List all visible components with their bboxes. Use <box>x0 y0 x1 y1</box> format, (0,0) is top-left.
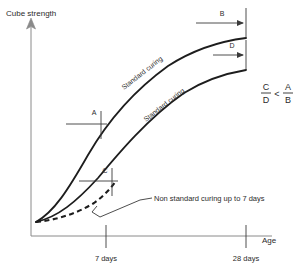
relation-expression-group: C D < A B <box>261 82 293 105</box>
marker-b-arrowhead <box>237 20 244 26</box>
marker-label-d: D <box>229 42 234 49</box>
tick-label-7-days: 7 days <box>95 254 117 263</box>
note-text: Non standard curing up to 7 days <box>154 194 265 203</box>
tick-label-28-days: 28 days <box>233 254 260 263</box>
relation-denominator-d: D <box>263 95 270 105</box>
relation-numerator-a: A <box>285 82 291 92</box>
note-bracket-base <box>92 212 100 217</box>
marker-label-a: A <box>92 109 97 116</box>
marker-label-b: B <box>220 10 225 17</box>
marker-label-c: C <box>102 167 107 174</box>
curve-label-standard-curing-lower: Standard curing <box>142 87 186 124</box>
marker-a-group <box>66 111 107 139</box>
cube-strength-age-diagram: Cube strength Age 7 days 28 days A C <box>0 0 299 271</box>
relation-numerator-c: C <box>263 82 270 92</box>
note-bracket-left <box>92 206 97 212</box>
figure-page: Cube strength Age 7 days 28 days A C <box>0 0 299 271</box>
relation-operator: < <box>274 89 279 99</box>
note-leader-group <box>92 198 152 217</box>
curve-non-standard-curing-dashed <box>36 181 116 222</box>
note-leader-line <box>100 200 140 217</box>
note-leader-line-tail <box>140 198 152 200</box>
axes-group <box>27 18 273 236</box>
x-axis-label: Age <box>262 236 277 245</box>
marker-d-arrowhead <box>237 52 244 58</box>
relation-denominator-b: B <box>285 95 291 105</box>
y-axis-label: Cube strength <box>6 9 56 18</box>
